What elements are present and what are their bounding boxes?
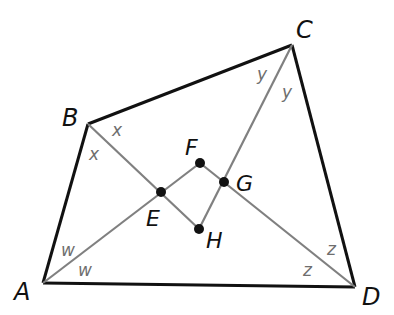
bisector-a: [43, 163, 200, 283]
vertex-label-d: D: [362, 283, 380, 311]
point-g: [219, 177, 229, 187]
point-label-h: H: [206, 228, 223, 253]
vertex-label-c: C: [296, 16, 313, 44]
angle-label-c-right: y: [281, 82, 293, 102]
point-label-e: E: [146, 206, 160, 231]
vertex-label-b: B: [62, 104, 78, 132]
point-label-g: G: [236, 171, 253, 196]
edge-da: [43, 283, 355, 287]
edge-cd: [292, 45, 355, 287]
bisector-c: [199, 45, 292, 229]
point-h: [194, 224, 204, 234]
geometry-diagram: A B C D E F G H w w x x y y z z: [0, 0, 394, 315]
angle-label-d-upper: z: [326, 239, 337, 259]
edge-bc: [88, 45, 292, 124]
vertex-label-a: A: [12, 278, 30, 306]
diagram-svg: A B C D E F G H w w x x y y z z: [0, 0, 394, 315]
angle-label-a-lower: w: [78, 260, 92, 280]
angle-label-b-lower: x: [88, 144, 100, 164]
angle-label-b-right: x: [111, 120, 123, 140]
point-label-f: F: [185, 135, 198, 160]
angle-label-d-lower: z: [302, 260, 313, 280]
point-e: [156, 187, 166, 197]
angle-label-a-upper: w: [61, 240, 75, 260]
angle-label-c-left: y: [256, 64, 268, 84]
